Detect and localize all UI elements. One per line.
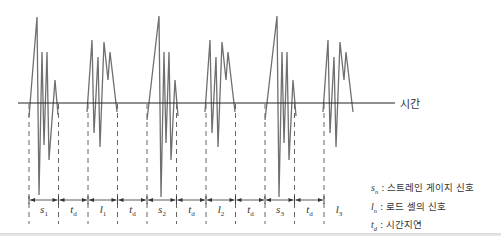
- legend-text: : 스트레인 게이지 신호: [378, 182, 474, 193]
- segment-label-s3: s3: [265, 203, 295, 218]
- segment-label-l3: l3: [324, 203, 354, 218]
- segment-label-td: td: [59, 203, 89, 218]
- bottom-divider: [0, 233, 501, 236]
- legend-item-load-cell: ln : 로드 셀의 신호: [371, 200, 474, 219]
- legend-text: : 로드 셀의 신호: [377, 201, 446, 212]
- segment-label-td: td: [177, 203, 207, 218]
- legend-text: : 시간지연: [377, 219, 422, 230]
- waveform-l1: [87, 40, 117, 147]
- legend: sn : 스트레인 게이지 신호 ln : 로드 셀의 신호 td : 시간지연: [371, 181, 474, 237]
- waveform-l3: [323, 40, 353, 147]
- waveform-s1: [29, 17, 58, 195]
- segment-label-l2: l2: [206, 203, 236, 218]
- waveform-s2: [147, 16, 178, 197]
- segment-label-td: td: [295, 203, 325, 218]
- legend-item-strain-gauge: sn : 스트레인 게이지 신호: [371, 181, 474, 200]
- segment-label-s1: s1: [29, 203, 59, 218]
- strain-gauge-waveforms: [29, 16, 296, 197]
- segment-label-td: td: [118, 203, 148, 218]
- segment-label-l1: l1: [88, 203, 118, 218]
- waveform-s3: [265, 16, 296, 197]
- load-cell-waveforms: [87, 40, 353, 147]
- segment-label-td: td: [236, 203, 266, 218]
- segment-label-s2: s2: [147, 203, 177, 218]
- waveform-l2: [205, 40, 235, 147]
- time-axis-label: 시간: [400, 95, 420, 111]
